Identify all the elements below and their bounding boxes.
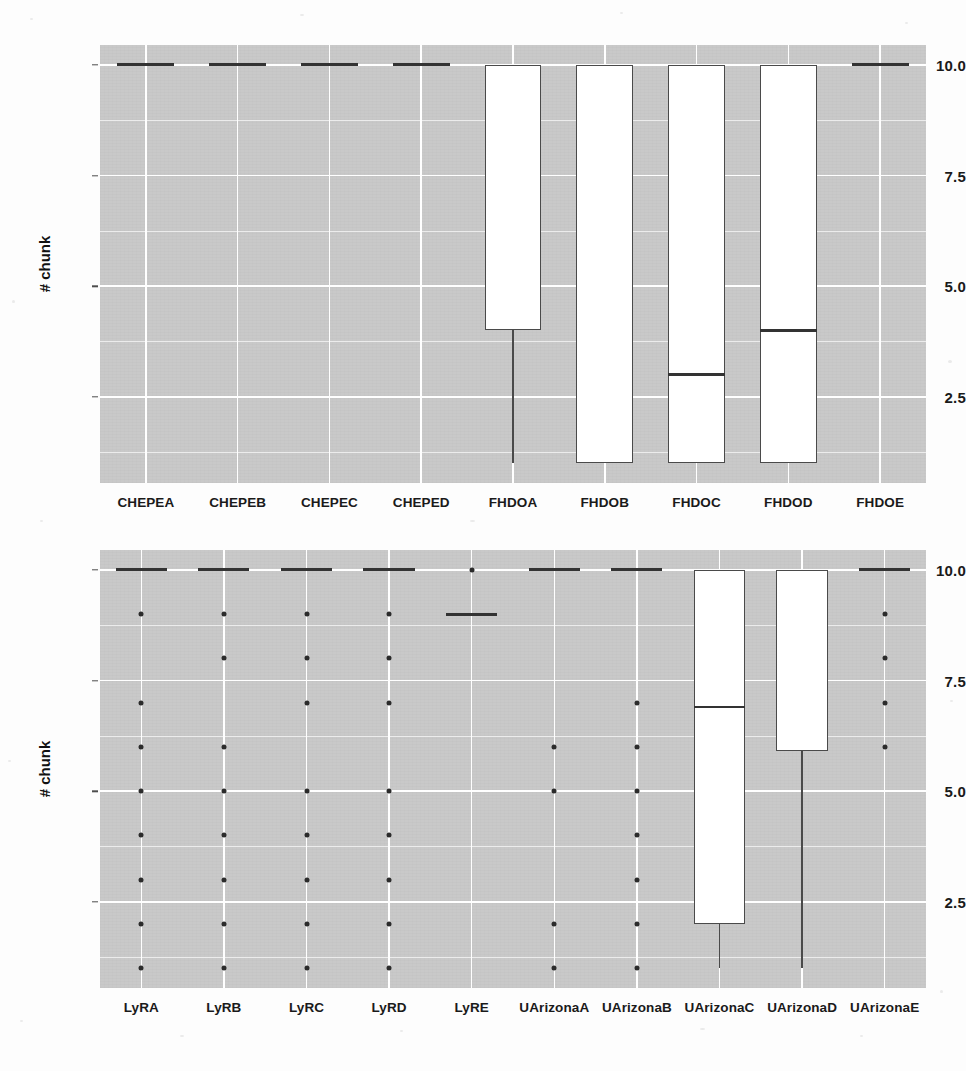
y-axis-tick-label: 10.0 [886, 56, 966, 73]
y-axis-tick-mark [92, 790, 98, 791]
boxplot-outlier-point [552, 744, 557, 749]
top-plot-panel [100, 45, 926, 483]
boxplot-median-line [393, 63, 450, 66]
boxplot-median-line [281, 568, 332, 571]
boxplot-median-line [760, 329, 817, 332]
y-axis-tick-mark [92, 64, 98, 65]
boxplot-outlier-point [634, 877, 639, 882]
scan-artifact-speck [940, 990, 943, 993]
y-axis-tick-label: 2.5 [886, 388, 966, 405]
y-axis-tick-label: 2.5 [886, 893, 966, 910]
boxplot-outlier-point [387, 921, 392, 926]
y-axis-tick-label: 5.0 [886, 278, 966, 295]
boxplot-outlier-point [139, 877, 144, 882]
boxplot-outlier-point [387, 656, 392, 661]
scan-artifact-speck [40, 520, 43, 522]
boxplot-box [668, 65, 725, 463]
top-panel-group: # chunk CHEPEACHEPEBCHEPECCHEPEDFHDOAFHD… [0, 0, 966, 530]
boxplot-outlier-point [469, 567, 474, 572]
boxplot-outlier-point [387, 877, 392, 882]
boxplot-median-line [209, 63, 266, 66]
boxplot-median-line [694, 706, 745, 709]
y-axis-tick-mark [92, 680, 98, 681]
boxplot-outlier-point [304, 833, 309, 838]
y-axis-tick-mark [92, 396, 98, 397]
y-axis-tick-label: 10.0 [886, 561, 966, 578]
boxplot-box [776, 570, 827, 751]
x-axis-tick-label: LyRB [206, 1000, 241, 1015]
boxplot-lower-whisker [719, 924, 721, 968]
scan-artifact-speck [300, 14, 304, 16]
scan-artifact-speck [12, 300, 15, 303]
boxplot-outlier-point [634, 744, 639, 749]
boxplot-outlier-point [304, 700, 309, 705]
x-axis-tick-label: FHDOE [856, 495, 904, 510]
boxplot-box [485, 65, 542, 330]
x-axis-tick-label: FHDOB [581, 495, 630, 510]
boxplot-outlier-point [882, 612, 887, 617]
boxplot-outlier-point [221, 789, 226, 794]
boxplot-outlier-point [387, 700, 392, 705]
scan-artifact-speck [30, 18, 33, 20]
boxplot-median-line [446, 613, 497, 616]
boxplot-outlier-point [139, 700, 144, 705]
scan-artifact-speck [8, 760, 11, 762]
boxplot-outlier-point [634, 833, 639, 838]
scan-artifact-speck [20, 1020, 23, 1022]
x-axis-tick-label: FHDOA [489, 495, 538, 510]
gridline-major-vertical [329, 45, 331, 483]
gridline-major-vertical [879, 45, 881, 483]
gridline-major-vertical [420, 45, 422, 483]
boxplot-lower-whisker [512, 330, 514, 463]
boxplot-outlier-point [882, 700, 887, 705]
x-axis-tick-label: UArizonaA [519, 1000, 589, 1015]
boxplot-outlier-point [139, 966, 144, 971]
boxplot-outlier-point [304, 921, 309, 926]
bottom-panel-group: # chunk LyRALyRBLyRCLyRDLyREUArizonaAUAr… [0, 528, 966, 1058]
boxplot-outlier-point [221, 744, 226, 749]
x-axis-tick-label: UArizonaE [850, 1000, 919, 1015]
x-axis-tick-label: CHEPED [393, 495, 450, 510]
boxplot-median-line [117, 63, 174, 66]
boxplot-outlier-point [304, 656, 309, 661]
boxplot-outlier-point [634, 966, 639, 971]
y-axis-tick-label: 7.5 [886, 167, 966, 184]
x-axis-tick-label: LyRD [372, 1000, 407, 1015]
boxplot-outlier-point [221, 966, 226, 971]
y-axis-tick-mark [92, 175, 98, 176]
boxplot-median-line [116, 568, 167, 571]
boxplot-outlier-point [634, 789, 639, 794]
boxplot-outlier-point [139, 921, 144, 926]
boxplot-outlier-point [139, 744, 144, 749]
boxplot-outlier-point [221, 921, 226, 926]
bottom-y-axis-title: # chunk [36, 719, 53, 819]
x-axis-tick-label: FHDOC [672, 495, 721, 510]
boxplot-median-line [198, 568, 249, 571]
scan-artifact-speck [400, 1030, 403, 1032]
boxplot-outlier-point [634, 700, 639, 705]
scan-artifact-speck [620, 12, 623, 14]
boxplot-outlier-point [387, 833, 392, 838]
boxplot-outlier-point [304, 612, 309, 617]
boxplot-box [576, 65, 633, 463]
boxplot-median-line [301, 63, 358, 66]
boxplot-outlier-point [882, 744, 887, 749]
boxplot-outlier-point [552, 966, 557, 971]
top-y-axis-title: # chunk [36, 214, 53, 314]
x-axis-tick-label: LyRA [124, 1000, 159, 1015]
boxplot-median-line [611, 568, 662, 571]
scan-artifact-speck [948, 360, 952, 363]
y-axis-tick-label: 7.5 [886, 672, 966, 689]
boxplot-outlier-point [221, 656, 226, 661]
boxplot-outlier-point [552, 921, 557, 926]
boxplot-box [694, 570, 745, 924]
scan-artifact-speck [470, 520, 475, 522]
boxplot-outlier-point [387, 789, 392, 794]
x-axis-tick-label: FHDOD [764, 495, 813, 510]
y-axis-tick-mark [92, 285, 98, 286]
x-axis-tick-label: UArizonaD [767, 1000, 837, 1015]
x-axis-tick-label: LyRE [454, 1000, 488, 1015]
boxplot-outlier-point [882, 656, 887, 661]
boxplot-outlier-point [221, 612, 226, 617]
boxplot-box [760, 65, 817, 463]
